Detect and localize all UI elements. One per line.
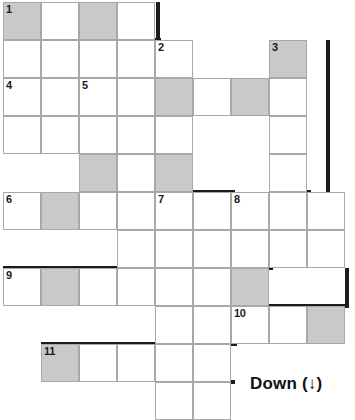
crossword-cell[interactable] (117, 344, 155, 382)
crossword-cell[interactable] (117, 154, 155, 192)
crossword-cell-numbered-5[interactable]: 5 (79, 78, 117, 116)
crossword-cell[interactable] (231, 78, 269, 116)
clue-number-9: 9 (6, 269, 12, 282)
crossword-cell[interactable] (79, 344, 117, 382)
crossword-cell[interactable] (117, 2, 155, 40)
clue-number-8: 8 (234, 193, 240, 206)
crossword-cell[interactable] (193, 382, 231, 420)
crossword-cell[interactable] (41, 2, 79, 40)
crossword-cell[interactable] (193, 268, 231, 306)
crossword-cell[interactable] (269, 154, 307, 192)
crossword-cell[interactable] (269, 230, 307, 268)
crossword-cell[interactable] (155, 116, 193, 154)
clue-number-6: 6 (6, 193, 12, 206)
clue-number-11: 11 (44, 345, 55, 358)
crossword-cell[interactable] (79, 40, 117, 78)
clue-number-2: 2 (158, 41, 164, 54)
crossword-cell[interactable] (3, 40, 41, 78)
crossword-cell[interactable] (79, 154, 117, 192)
crossword-cell[interactable] (41, 40, 79, 78)
crossword-cell[interactable] (41, 78, 79, 116)
crossword-cell[interactable] (155, 382, 193, 420)
crossword-cell[interactable] (117, 78, 155, 116)
crossword-cell[interactable] (117, 40, 155, 78)
crossword-cell[interactable] (79, 116, 117, 154)
crossword-cell-numbered-9[interactable]: 9 (3, 268, 41, 306)
crossword-cell-numbered-10[interactable]: 10 (231, 306, 269, 344)
crossword-cell[interactable] (117, 192, 155, 230)
crossword-cell-numbered-8[interactable]: 8 (231, 192, 269, 230)
crossword-cell[interactable] (79, 2, 117, 40)
crossword-cell[interactable] (3, 116, 41, 154)
crossword-cell[interactable] (117, 230, 155, 268)
clue-number-5: 5 (82, 79, 88, 92)
crossword-cell-numbered-1[interactable]: 1 (3, 2, 41, 40)
crossword-cell[interactable] (269, 192, 307, 230)
crossword-cell[interactable] (79, 192, 117, 230)
crossword-cell-numbered-2[interactable]: 2 (155, 40, 193, 78)
crossword-cell[interactable] (269, 116, 307, 154)
clue-number-4: 4 (6, 79, 12, 92)
crossword-cell[interactable] (231, 268, 269, 306)
grid-heavy-edge (156, 2, 160, 40)
crossword-cell[interactable] (231, 230, 269, 268)
crossword-cell[interactable] (193, 344, 231, 382)
crossword-cell[interactable] (269, 78, 307, 116)
crossword-cell[interactable] (193, 230, 231, 268)
crossword-cell[interactable] (41, 268, 79, 306)
crossword-cell[interactable] (307, 192, 345, 230)
crossword-cell[interactable] (41, 116, 79, 154)
crossword-cell[interactable] (307, 230, 345, 268)
crossword-cell[interactable] (193, 306, 231, 344)
crossword-cell-numbered-6[interactable]: 6 (3, 192, 41, 230)
clue-number-1: 1 (6, 3, 12, 16)
crossword-cell[interactable] (41, 192, 79, 230)
crossword-cell-numbered-11[interactable]: 11 (41, 344, 79, 382)
crossword-cell-numbered-4[interactable]: 4 (3, 78, 41, 116)
crossword-cell-numbered-3[interactable]: 3 (269, 40, 307, 78)
crossword-cell[interactable] (155, 154, 193, 192)
crossword-cell[interactable] (79, 268, 117, 306)
crossword-cell[interactable] (117, 268, 155, 306)
down-section-heading: Down (↓) (250, 374, 322, 394)
crossword-cell[interactable] (307, 306, 345, 344)
clue-number-3: 3 (272, 41, 278, 54)
clue-number-7: 7 (158, 193, 164, 206)
crossword-cell[interactable] (155, 306, 193, 344)
crossword-cell[interactable] (155, 268, 193, 306)
crossword-cell[interactable] (155, 230, 193, 268)
crossword-cell[interactable] (193, 192, 231, 230)
crossword-cell[interactable] (117, 116, 155, 154)
clue-number-10: 10 (234, 307, 246, 320)
crossword-cell[interactable] (155, 344, 193, 382)
crossword-cell-numbered-7[interactable]: 7 (155, 192, 193, 230)
crossword-cell[interactable] (269, 306, 307, 344)
grid-heavy-edge (345, 268, 349, 308)
crossword-cell[interactable] (193, 78, 231, 116)
crossword-cell[interactable] (155, 78, 193, 116)
